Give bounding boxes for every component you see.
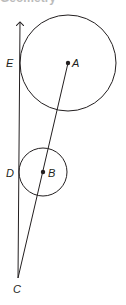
label-a: A (71, 57, 79, 69)
label-c: C (13, 283, 21, 295)
label-b: B (48, 167, 55, 179)
label-e: E (6, 57, 14, 69)
label-d: D (6, 167, 14, 179)
geometry-diagram: Geometry A B C D E (0, 0, 126, 305)
point-a-dot (66, 61, 70, 65)
ray-c-up (18, 22, 20, 278)
point-b-dot (41, 170, 45, 174)
diagram-svg: A B C D E (0, 0, 126, 305)
